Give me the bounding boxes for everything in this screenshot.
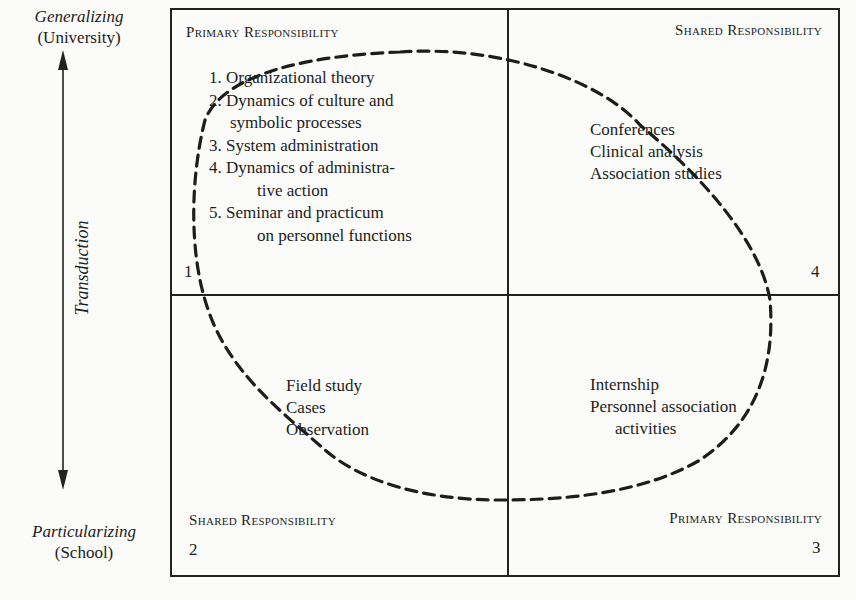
q2-item-list: Field study Cases Observation	[286, 375, 369, 441]
horizontal-divider	[170, 294, 840, 296]
q1-item-2: 2. Dynamics of culture and	[209, 90, 412, 113]
q2-number: 2	[189, 540, 198, 560]
q3-number: 3	[812, 538, 821, 558]
vertical-divider	[507, 8, 509, 577]
q4-title: Shared Responsibility	[675, 22, 822, 39]
q4-item-list: Conferences Clinical analysis Associatio…	[590, 119, 722, 185]
q2-item: Cases	[286, 397, 369, 419]
q1-item-4: 4. Dynamics of administra-	[209, 157, 412, 180]
q4-item: Association studies	[590, 163, 722, 185]
q1-item-list: 1. Organizational theory 2. Dynamics of …	[209, 67, 412, 247]
q1-item-2-cont: symbolic processes	[209, 112, 412, 135]
q2-item: Observation	[286, 419, 369, 441]
q3-item: Personnel association	[590, 396, 737, 418]
q1-title: Primary Responsibility	[186, 24, 339, 41]
q1-number: 1	[184, 262, 193, 282]
q1-item-5: 5. Seminar and practicum	[209, 202, 412, 225]
q3-item: activities	[590, 418, 737, 440]
q2-item: Field study	[286, 375, 369, 397]
q4-item: Conferences	[590, 119, 722, 141]
q4-item: Clinical analysis	[590, 141, 722, 163]
double-arrow-icon	[58, 50, 68, 490]
q1-item-4-cont: tive action	[209, 180, 412, 203]
q3-title: Primary Responsibility	[669, 510, 822, 527]
q4-number: 4	[811, 262, 820, 282]
transduction-label: Transduction	[72, 220, 93, 315]
q3-item: Internship	[590, 374, 737, 396]
q1-item-5-cont: on personnel functions	[209, 225, 412, 248]
q1-item-3: 3. System administration	[209, 135, 412, 158]
q2-title: Shared Responsibility	[189, 512, 336, 529]
q3-item-list: Internship Personnel association activit…	[590, 374, 737, 440]
q1-item-1: 1. Organizational theory	[209, 67, 412, 90]
